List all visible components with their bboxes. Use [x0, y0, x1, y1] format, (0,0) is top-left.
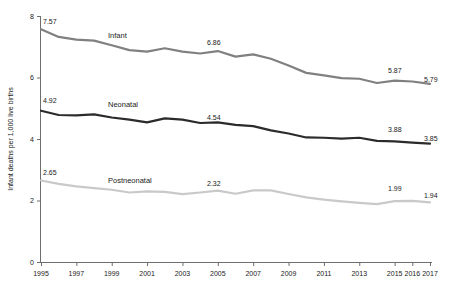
data-label-infant-2016: 5.87 — [388, 67, 402, 74]
data-label-infant-2017: 5.79 — [424, 76, 438, 83]
data-label-postneonatal-2017: 1.94 — [424, 192, 438, 199]
chart-canvas: 02468 1995199719992001200320052007200920… — [0, 0, 453, 290]
x-tick-label: 2011 — [316, 270, 331, 277]
x-tick-label: 2015 — [387, 270, 403, 277]
data-label-neonatal-2016: 3.88 — [388, 126, 402, 133]
series-line-neonatal — [41, 111, 430, 144]
x-tick-label: 1997 — [69, 270, 85, 277]
x-tick-label: 2017 — [422, 270, 438, 277]
x-tick-label: 2005 — [210, 270, 226, 277]
x-tick-label: 2016 — [405, 270, 421, 277]
x-tick-label: 2001 — [139, 270, 155, 277]
data-label-neonatal-2017: 3.85 — [424, 135, 438, 142]
data-label-postneonatal-1995: 2.65 — [43, 169, 57, 176]
x-axis-tick-labels: 1995199719992001200320052007200920112013… — [33, 270, 438, 277]
y-axis-tick-labels: 02468 — [30, 13, 34, 266]
infant-mortality-line-chart: 02468 1995199719992001200320052007200920… — [0, 0, 453, 290]
y-tick-label: 8 — [30, 13, 34, 20]
data-label-neonatal-2005: 4.54 — [207, 114, 221, 121]
data-label-neonatal-1995: 4.92 — [43, 97, 57, 104]
y-tick-label: 6 — [30, 74, 34, 81]
series-line-infant — [41, 29, 430, 84]
data-label-infant-2005: 6.86 — [207, 39, 221, 46]
x-tick-label: 1995 — [33, 270, 49, 277]
x-tick-label: 2013 — [351, 270, 367, 277]
series-label-neonatal: Neonatal — [108, 100, 138, 109]
series-line-postneonatal — [41, 181, 430, 205]
data-label-postneonatal-2005: 2.32 — [207, 180, 221, 187]
y-tick-label: 4 — [30, 136, 34, 143]
y-tick-label: 2 — [30, 197, 34, 204]
y-axis-title: Infant deaths per 1,000 live births — [7, 87, 15, 191]
x-tick-label: 2003 — [175, 270, 191, 277]
y-tick-label: 0 — [30, 259, 34, 266]
x-tick-label: 2007 — [245, 270, 261, 277]
x-tick-label: 1999 — [104, 270, 120, 277]
data-label-infant-1995: 7.57 — [43, 18, 57, 25]
series-label-infant: Infant — [108, 31, 128, 40]
x-tick-label: 2009 — [281, 270, 297, 277]
series-label-postneonatal: Postneonatal — [108, 176, 152, 185]
data-label-postneonatal-2016: 1.99 — [388, 185, 402, 192]
